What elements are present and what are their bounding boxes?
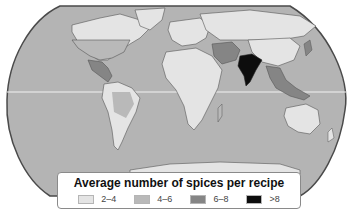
legend-item-4-6: 4–6 bbox=[134, 194, 172, 204]
legend-swatch bbox=[246, 195, 262, 204]
legend-swatch bbox=[78, 195, 94, 204]
legend-title: Average number of spices per recipe bbox=[58, 176, 300, 190]
legend-label: 2–4 bbox=[101, 194, 116, 204]
legend-swatch bbox=[134, 195, 150, 204]
legend-swatch bbox=[190, 195, 206, 204]
legend-item-gt-8: >8 bbox=[246, 194, 279, 204]
legend-item-2-4: 2–4 bbox=[78, 194, 116, 204]
legend-label: >8 bbox=[269, 194, 279, 204]
map-legend: Average number of spices per recipe 2–4 … bbox=[57, 172, 301, 209]
legend-label: 4–6 bbox=[157, 194, 172, 204]
legend-items: 2–4 4–6 6–8 >8 bbox=[58, 193, 300, 205]
legend-item-6-8: 6–8 bbox=[190, 194, 228, 204]
legend-label: 6–8 bbox=[213, 194, 228, 204]
